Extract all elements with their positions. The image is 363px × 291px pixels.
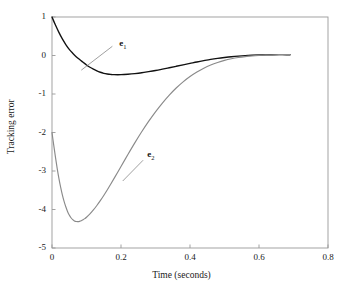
y-tick-label: 1 <box>8 12 46 21</box>
plot-canvas <box>0 0 363 291</box>
series-label-subscript: 1 <box>123 43 126 50</box>
series-label-e1: e1 <box>119 39 126 50</box>
y-tick-label: -4 <box>8 205 46 214</box>
x-tick-label: 0.6 <box>239 253 279 262</box>
data-series-group <box>52 17 290 222</box>
annotation-leader-lines <box>81 46 143 181</box>
x-tick-label: 0.4 <box>170 253 210 262</box>
x-tick-label: 0.2 <box>101 253 141 262</box>
axes-frame <box>52 17 328 248</box>
axis-tick-marks <box>52 17 328 248</box>
plot-frame-rect <box>52 17 328 248</box>
x-axis-title: Time (seconds) <box>0 271 363 281</box>
leader-line-e2 <box>123 160 143 181</box>
y-tick-label: -5 <box>8 243 46 252</box>
series-line-e2 <box>52 55 290 222</box>
y-tick-label: 0 <box>8 51 46 60</box>
series-line-e1 <box>52 17 290 75</box>
x-tick-label: 0.8 <box>308 253 348 262</box>
series-label-e2: e2 <box>147 150 154 161</box>
series-label-subscript: 2 <box>151 154 154 161</box>
x-tick-label: 0 <box>32 253 72 262</box>
chart-figure: 10-1-2-3-4-5 00.20.40.60.8 Tracking erro… <box>0 0 363 291</box>
leader-line-e1 <box>81 46 112 70</box>
y-axis-title: Tracking error <box>7 77 17 177</box>
